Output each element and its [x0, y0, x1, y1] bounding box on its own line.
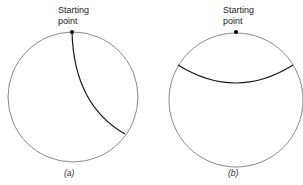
starting-point-label-line2-a: point [58, 16, 78, 26]
starting-point-label-line1-b: Starting [223, 5, 254, 15]
starting-point-label-line2-b: point [223, 16, 243, 26]
panel-a: Starting point (a) [8, 5, 138, 178]
starting-point-dot-b [234, 30, 238, 34]
panel-b: Starting point (b) [169, 5, 303, 178]
path-curve-b [178, 65, 293, 83]
starting-point-label-line1-a: Starting [58, 5, 89, 15]
starting-point-dot-a [70, 30, 74, 34]
path-curve-a [72, 32, 125, 134]
caption-a: (a) [64, 168, 75, 178]
caption-b: (b) [228, 168, 239, 178]
circle-b [169, 33, 303, 167]
diagram-canvas: Starting point (a) Starting point (b) [0, 0, 303, 185]
